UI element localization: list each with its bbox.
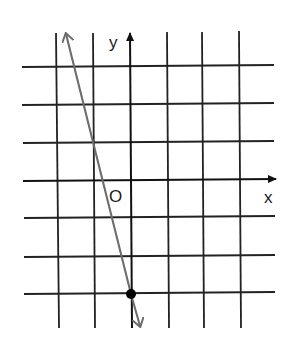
graph-line <box>66 34 131 294</box>
origin-label: O <box>109 187 122 206</box>
intercept-point <box>126 289 136 299</box>
y-axis-label: y <box>109 33 118 52</box>
x-axis-label: x <box>264 188 273 207</box>
coordinate-plane: y x O <box>0 0 296 358</box>
y-axis <box>130 33 132 328</box>
x-axis <box>23 179 276 181</box>
